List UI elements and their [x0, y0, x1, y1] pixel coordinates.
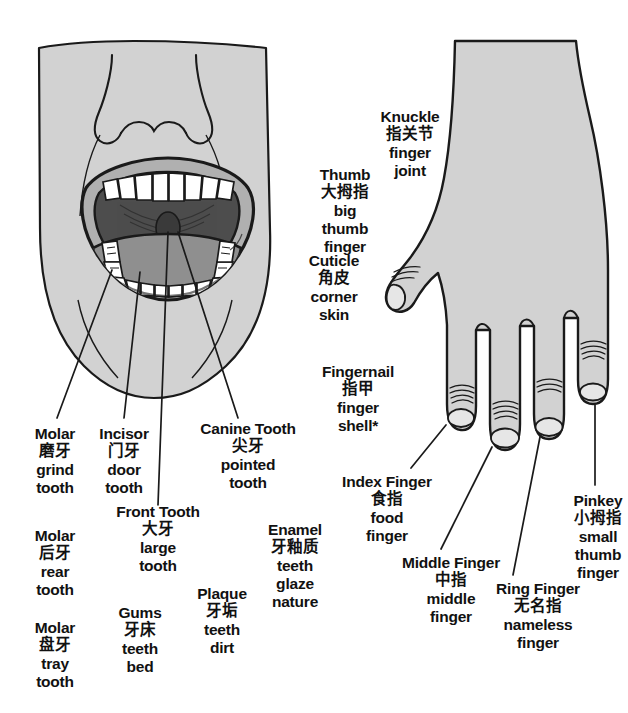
- nail-ring: [536, 418, 563, 436]
- label-pinkey: Pinkey 小拇指 small thumb finger: [574, 492, 623, 582]
- label-plaque-en: Plaque: [197, 585, 247, 603]
- leader-index-finger: [411, 425, 446, 468]
- label-canine-tooth: Canine Tooth 尖牙 pointed tooth: [200, 420, 295, 492]
- label-molar-tray-lit2: tooth: [35, 673, 75, 691]
- label-cuticle-en: Cuticle: [309, 252, 359, 270]
- label-fingernail-lit1: finger: [322, 399, 394, 417]
- label-thumb-lit2: thumb: [320, 220, 371, 238]
- label-knuckle-en: Knuckle: [381, 108, 440, 126]
- label-middle-finger: Middle Finger 中指 middle finger: [402, 554, 500, 626]
- label-plaque-lit1: teeth: [197, 621, 247, 639]
- tooth-upper-incisor-left: [153, 173, 168, 201]
- label-fingernail-lit2: shell*: [322, 417, 394, 435]
- label-pinkey-lit3: finger: [574, 564, 623, 582]
- label-index-finger-zh: 食指: [342, 491, 432, 509]
- label-canine-tooth-lit2: tooth: [200, 474, 295, 492]
- label-enamel-en: Enamel: [268, 521, 322, 539]
- label-enamel: Enamel 牙釉质 teeth glaze nature: [268, 521, 322, 611]
- label-ring-finger-lit2: finger: [496, 634, 580, 652]
- label-incisor: Incisor 门牙 door tooth: [99, 425, 148, 497]
- label-fingernail-en: Fingernail: [322, 363, 394, 381]
- leader-middle-finger: [441, 447, 492, 549]
- label-molar-grind-en: Molar: [35, 425, 75, 443]
- label-fingernail-zh: 指甲: [322, 381, 394, 399]
- label-canine-tooth-zh: 尖牙: [200, 438, 295, 456]
- label-ring-finger-zh: 无名指: [496, 598, 580, 616]
- label-fingernail: Fingernail 指甲 finger shell*: [322, 363, 394, 435]
- label-ring-finger-lit1: nameless: [496, 616, 580, 634]
- label-middle-finger-en: Middle Finger: [402, 554, 500, 572]
- label-cuticle-lit2: skin: [309, 306, 359, 324]
- label-molar-rear-lit2: tooth: [35, 581, 75, 599]
- tooth-upper-molar-right: [217, 179, 234, 200]
- label-molar-grind: Molar 磨牙 grind tooth: [35, 425, 75, 497]
- label-molar-rear-zh: 后牙: [35, 545, 75, 563]
- label-thumb-lit1: big: [320, 202, 371, 220]
- label-canine-tooth-lit1: pointed: [200, 456, 295, 474]
- label-molar-rear: Molar 后牙 rear tooth: [35, 527, 75, 599]
- label-thumb-en: Thumb: [320, 166, 371, 184]
- tooth-upper-premolar-left: [118, 176, 136, 199]
- label-gums-lit2: bed: [118, 658, 161, 676]
- label-front-tooth-lit1: large: [116, 539, 200, 557]
- nail-index: [448, 409, 474, 427]
- label-incisor-lit2: tooth: [99, 479, 148, 497]
- label-pinkey-en: Pinkey: [574, 492, 623, 510]
- label-front-tooth: Front Tooth 大牙 large tooth: [116, 503, 200, 575]
- label-front-tooth-lit2: tooth: [116, 557, 200, 575]
- label-cuticle-zh: 角皮: [309, 270, 359, 288]
- label-ring-finger: Ring Finger 无名指 nameless finger: [496, 580, 580, 652]
- label-knuckle-zh: 指关节: [381, 126, 440, 144]
- tooth-upper-canine-left: [135, 174, 152, 200]
- label-molar-grind-zh: 磨牙: [35, 443, 75, 461]
- tooth-upper-canine-right: [185, 174, 202, 200]
- label-index-finger-lit2: finger: [342, 527, 432, 545]
- nail-pinkey: [580, 384, 606, 401]
- nail-middle: [491, 429, 519, 448]
- label-middle-finger-zh: 中指: [402, 572, 500, 590]
- label-plaque-lit2: dirt: [197, 639, 247, 657]
- label-pinkey-zh: 小拇指: [574, 510, 623, 528]
- leader-ring-finger: [513, 437, 540, 575]
- face-illustration: [39, 41, 270, 398]
- label-molar-tray-lit1: tray: [35, 655, 75, 673]
- label-index-finger-en: Index Finger: [342, 473, 432, 491]
- label-cuticle-lit1: corner: [309, 288, 359, 306]
- label-pinkey-lit1: small: [574, 528, 623, 546]
- label-plaque: Plaque 牙垢 teeth dirt: [197, 585, 247, 657]
- label-enamel-lit3: nature: [268, 593, 322, 611]
- tooth-lower-molar-right: [217, 241, 235, 262]
- label-enamel-lit1: teeth: [268, 557, 322, 575]
- label-thumb-zh: 大拇指: [320, 184, 371, 202]
- label-gums-zh: 牙床: [118, 622, 161, 640]
- label-index-finger: Index Finger 食指 food finger: [342, 473, 432, 545]
- label-index-finger-lit1: food: [342, 509, 432, 527]
- label-molar-tray-zh: 盘牙: [35, 637, 75, 655]
- hand-outline: [386, 41, 608, 450]
- label-incisor-zh: 门牙: [99, 443, 148, 461]
- label-front-tooth-zh: 大牙: [116, 521, 200, 539]
- label-enamel-lit2: glaze: [268, 575, 322, 593]
- diagram-page: Molar 磨牙 grind tooth Incisor 门牙 door too…: [0, 0, 628, 713]
- label-molar-tray-en: Molar: [35, 619, 75, 637]
- label-middle-finger-lit2: finger: [402, 608, 500, 626]
- label-thumb: Thumb 大拇指 big thumb finger: [320, 166, 371, 256]
- label-canine-tooth-en: Canine Tooth: [200, 420, 295, 438]
- nail-thumb: [387, 285, 406, 310]
- label-cuticle: Cuticle 角皮 corner skin: [309, 252, 359, 324]
- label-middle-finger-lit1: middle: [402, 590, 500, 608]
- label-front-tooth-en: Front Tooth: [116, 503, 200, 521]
- tooth-upper-premolar-right: [201, 176, 219, 199]
- label-knuckle-lit1: finger: [381, 144, 440, 162]
- label-plaque-zh: 牙垢: [197, 603, 247, 621]
- label-molar-tray: Molar 盘牙 tray tooth: [35, 619, 75, 691]
- label-gums: Gums 牙床 teeth bed: [118, 604, 161, 676]
- label-molar-grind-lit1: grind: [35, 461, 75, 479]
- label-incisor-en: Incisor: [99, 425, 148, 443]
- label-incisor-lit1: door: [99, 461, 148, 479]
- label-molar-rear-en: Molar: [35, 527, 75, 545]
- label-gums-en: Gums: [118, 604, 161, 622]
- hand-illustration: [386, 41, 608, 450]
- label-knuckle-lit2: joint: [381, 162, 440, 180]
- tooth-upper-incisor-right: [169, 173, 184, 201]
